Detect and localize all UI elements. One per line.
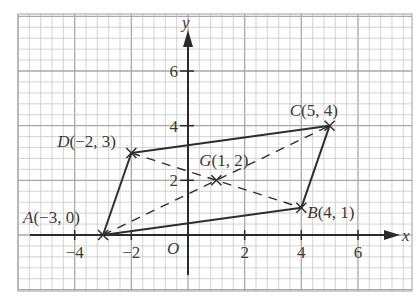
y-tick-label: 6 [170,62,179,81]
x-axis-label: x [401,226,410,245]
point-D: D(−2, 3) [56,132,136,158]
x-tick-label: 2 [240,243,249,262]
edge-CD [131,126,329,153]
coordinate-diagram: x y O −4−2246246 A(−3, 0)B(4, 1)C(5, 4)D… [0,0,419,308]
point-label-B: B(4, 1) [307,203,354,222]
point-label-G: G(1, 2) [199,151,248,170]
y-axis-label: y [180,13,190,32]
origin-label: O [167,239,179,258]
point-B: B(4, 1) [296,203,354,222]
point-label-A: A(−3, 0) [22,208,80,227]
x-tick-label: −2 [122,243,140,262]
point-label-D: D(−2, 3) [56,132,116,151]
x-tick-label: 6 [354,243,363,262]
point-label-C: C(5, 4) [290,101,338,120]
y-tick-label: 4 [170,117,179,136]
x-tick-label: −4 [66,243,85,262]
y-tick-label: 2 [170,171,179,190]
edge-DA [103,153,131,235]
x-tick-label: 4 [297,243,306,262]
